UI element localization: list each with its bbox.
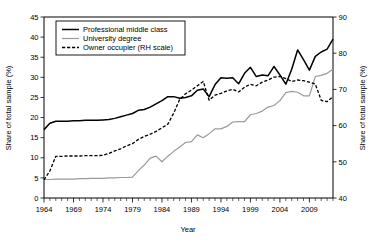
x-tick-label: 1989: [183, 205, 200, 214]
right-tick-label: 90: [339, 13, 347, 22]
left-axis-title: Share of total sample (%): [4, 65, 13, 150]
right-tick-label: 70: [339, 85, 347, 94]
legend-label-university-degree: University degree: [83, 34, 141, 43]
x-tick-label: 1999: [242, 205, 259, 214]
legend-label-professional-middle-class: Professional middle class: [83, 25, 168, 34]
right-tick-label: 80: [339, 49, 347, 58]
x-tick-label: 2004: [272, 205, 289, 214]
x-tick-label: 1994: [213, 205, 230, 214]
legend-label-owner-occupier: Owner occupier (RH scale): [83, 43, 174, 52]
x-axis-title: Year: [180, 225, 196, 234]
line-chart: 051015202530354045 405060708090 19641969…: [0, 0, 375, 247]
chart-container: 051015202530354045 405060708090 19641969…: [0, 0, 375, 247]
left-tick-label: 40: [30, 33, 38, 42]
right-tick-label: 50: [339, 158, 347, 167]
right-axis-title: Share of total sample (%): [358, 65, 367, 150]
x-tick-label: 1979: [124, 205, 141, 214]
left-tick-label: 20: [30, 113, 38, 122]
x-tick-label: 1969: [65, 205, 82, 214]
left-tick-label: 10: [30, 153, 38, 162]
left-tick-label: 5: [34, 174, 38, 183]
left-tick-label: 15: [30, 133, 38, 142]
left-tick-label: 30: [30, 73, 38, 82]
right-tick-label: 60: [339, 121, 347, 130]
left-tick-label: 0: [34, 194, 38, 203]
x-tick-label: 1984: [154, 205, 171, 214]
left-tick-label: 45: [30, 13, 38, 22]
right-tick-label: 40: [339, 194, 347, 203]
chart-legend: Professional middle class University deg…: [56, 21, 185, 55]
x-tick-label: 2009: [301, 205, 318, 214]
left-tick-label: 35: [30, 53, 38, 62]
x-tick-label: 1964: [36, 205, 53, 214]
x-tick-label: 1974: [95, 205, 112, 214]
left-tick-label: 25: [30, 93, 38, 102]
